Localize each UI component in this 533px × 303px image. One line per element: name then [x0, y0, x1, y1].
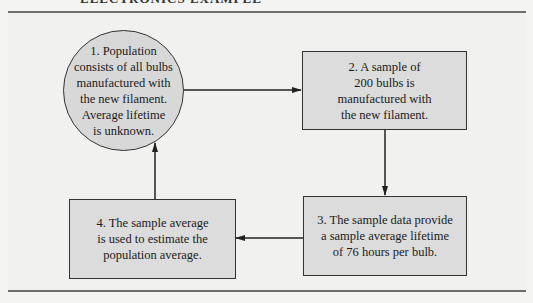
node-sample-box: 2. A sample of 200 bulbs is manufactured… [302, 51, 467, 130]
node-population-circle: 1. Population consists of all bulbs manu… [63, 30, 184, 151]
node-estimate-box: 4. The sample average is used to estimat… [69, 199, 236, 279]
node-sample-label: 2. A sample of 200 bulbs is manufactured… [337, 59, 431, 123]
bottom-rule [8, 290, 526, 292]
page-header-title: ELECTRONICS EXAMPLE [80, 0, 262, 7]
node-sample-data-label: 3. The sample data provide a sample aver… [317, 212, 453, 260]
node-estimate-label: 4. The sample average is used to estimat… [96, 215, 208, 263]
node-population-label: 1. Population consists of all bulbs manu… [74, 43, 173, 139]
node-sample-data-box: 3. The sample data provide a sample aver… [303, 196, 467, 276]
